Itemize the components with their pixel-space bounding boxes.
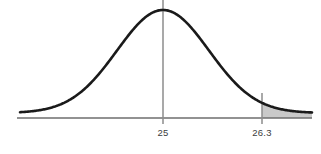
x-tick-label-mean: 25 — [158, 127, 169, 138]
normal-curve-path — [20, 10, 312, 112]
distribution-chart-svg: 25 26.3 — [0, 0, 321, 154]
x-tick-label-cutoff: 26.3 — [252, 127, 271, 138]
normal-curve-figure: 25 26.3 — [0, 0, 321, 154]
